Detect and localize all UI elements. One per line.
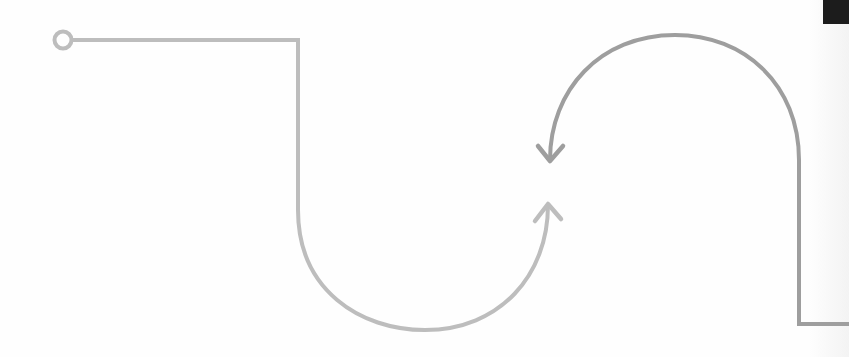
light-connector-line: [72, 40, 548, 330]
light-connector-path: [55, 32, 562, 331]
circle-endpoint-icon: [55, 32, 72, 49]
dark-connector-path: [538, 35, 849, 324]
dark-connector-line: [550, 35, 849, 324]
corner-dark-block: [823, 0, 849, 24]
diagram-canvas: [0, 0, 849, 357]
connector-diagram: [0, 0, 849, 357]
